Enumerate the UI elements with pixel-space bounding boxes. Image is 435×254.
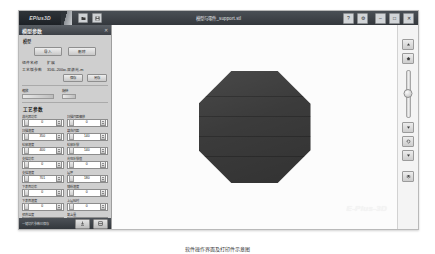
slice-icon[interactable] [93, 219, 108, 229]
octagonal-prism-model[interactable] [199, 71, 311, 183]
parameter-spinner[interactable]: 0 [22, 203, 64, 211]
spinner-stepper[interactable] [56, 161, 62, 168]
window-body: 模型参数 ✕ 模型 导入 删除 组件名称 扩展 工艺版参数 3 [19, 25, 418, 229]
parameter-field: 光斑补偿值0 [67, 156, 109, 169]
parameter-label: 下表面速度 [22, 198, 64, 203]
spinner-stepper[interactable] [56, 119, 62, 126]
delete-model-button[interactable]: 删除 [68, 47, 96, 56]
scale-slider[interactable] [22, 94, 54, 99]
parameter-spinner[interactable]: 140 [67, 147, 109, 155]
panel-title: 模型参数 [22, 27, 42, 34]
rotate-slider[interactable] [62, 94, 76, 99]
spinner-stepper[interactable] [56, 133, 62, 140]
spinner-stepper[interactable] [100, 175, 106, 182]
parameter-panel: 模型参数 ✕ 模型 导入 删除 组件名称 扩展 工艺版参数 3 [19, 25, 112, 229]
view-layer-icon[interactable] [402, 171, 414, 182]
parameter-spinner[interactable]: 0 [67, 161, 109, 169]
parameter-field: 激光器功率0 [22, 114, 64, 127]
parameter-value[interactable]: 140 [74, 149, 101, 152]
parameter-field: 上层延时0 [67, 198, 109, 211]
scale-slider-group: 缩放 [22, 88, 54, 99]
help-icon[interactable]: ? [343, 13, 354, 24]
model-layer-line [199, 116, 311, 117]
parameter-spinner[interactable]: 0 [22, 161, 64, 169]
parameter-spinner[interactable]: 0 [67, 189, 109, 197]
save-button[interactable]: 保存 [63, 74, 83, 82]
save-file-icon[interactable] [92, 13, 102, 23]
view-down-icon[interactable] [402, 150, 414, 161]
model-viewport[interactable]: E-Plus-3D [112, 25, 397, 229]
parameter-value[interactable]: 180 [74, 177, 101, 180]
parameter-field: 扫描间距偏移0 [67, 114, 109, 127]
open-file-icon[interactable] [78, 13, 88, 23]
view-toolbar [397, 25, 418, 229]
parameter-spinner[interactable]: 0 [22, 189, 64, 197]
component-name-label: 组件名称 [22, 60, 44, 65]
model-group-label: 模型 [23, 38, 108, 44]
parameter-label: 氧含量 [67, 212, 109, 217]
parameter-value[interactable]: 0 [29, 121, 56, 124]
parameter-spinner[interactable]: 350 [22, 133, 64, 141]
spinner-stepper[interactable] [100, 189, 106, 196]
parameter-spinner[interactable]: 0 [67, 203, 109, 211]
parameter-label: 光斑补偿值 [67, 156, 109, 161]
parameter-spinner[interactable]: 0 [67, 119, 109, 127]
zoom-slider-thumb[interactable] [404, 89, 413, 98]
panel-close-icon[interactable]: ✕ [104, 27, 108, 33]
parameter-value[interactable]: 0 [29, 205, 56, 208]
parameter-value[interactable]: 701 [29, 177, 56, 180]
parameter-label: 支撑速度 [22, 170, 64, 175]
parameter-spinner[interactable]: 400 [22, 147, 64, 155]
gear-icon[interactable]: ⚙ [357, 13, 368, 24]
parameter-spinner[interactable]: 0 [22, 119, 64, 127]
parameter-value[interactable]: 140 [74, 135, 101, 138]
export-icon[interactable] [75, 219, 90, 229]
parameter-value[interactable]: 350 [29, 135, 56, 138]
view-up-icon[interactable] [402, 39, 414, 50]
footer-note: 一键切片参数已保存 [22, 221, 49, 226]
parameter-value[interactable]: 0 [74, 191, 101, 194]
parameter-spinner[interactable]: 701 [22, 175, 64, 183]
parameter-field: 轮廓补偿140 [67, 142, 109, 155]
parameter-value[interactable]: 0 [29, 163, 56, 166]
footer-buttons [75, 219, 108, 229]
parameter-value[interactable]: 0 [74, 163, 101, 166]
parameter-value[interactable]: 0 [74, 205, 101, 208]
spinner-stepper[interactable] [100, 147, 106, 154]
import-model-button[interactable]: 导入 [34, 47, 62, 56]
spinner-stepper[interactable] [56, 203, 62, 210]
view-rotate-icon[interactable] [402, 136, 414, 147]
view-home-icon[interactable] [402, 53, 414, 64]
process-version-label: 工艺版参数 [22, 67, 44, 72]
parameter-value[interactable]: 0 [74, 121, 101, 124]
spinner-stepper[interactable] [56, 147, 62, 154]
minimize-button[interactable]: – [375, 13, 386, 24]
parameter-label: 层厚 [67, 170, 109, 175]
process-parameter-grid: 激光器功率0扫描间距偏移0扫描速度350填充间距140轮廓速度400轮廓补偿14… [22, 114, 108, 219]
parameter-spinner[interactable]: 140 [67, 133, 109, 141]
parameter-field: 层厚180 [67, 170, 109, 183]
zoom-slider[interactable] [403, 70, 413, 116]
divider-2 [22, 102, 108, 103]
parameter-value[interactable]: 400 [29, 149, 56, 152]
spinner-stepper[interactable] [56, 189, 62, 196]
spinner-stepper[interactable] [56, 175, 62, 182]
view-fit-icon[interactable] [402, 122, 414, 133]
parameter-label: 支撑功率 [22, 156, 64, 161]
spinner-stepper[interactable] [100, 119, 106, 126]
parameter-label: 预热温度 [22, 212, 64, 217]
parameter-value[interactable]: 0 [29, 191, 56, 194]
close-button[interactable]: ✕ [403, 13, 414, 24]
maximize-button[interactable]: □ [389, 13, 400, 24]
transform-slider-row: 缩放 旋转 [22, 88, 108, 99]
save-as-button[interactable]: 另存 [87, 74, 107, 82]
spinner-stepper[interactable] [100, 133, 106, 140]
spinner-stepper[interactable] [100, 161, 106, 168]
spinner-stepper[interactable] [100, 203, 106, 210]
app-root: EPlus3D 模型与零件_support.stl ? ⚙ – □ ✕ [0, 0, 435, 254]
parameter-spinner[interactable]: 180 [67, 175, 109, 183]
parameter-field: 支撑速度701 [22, 170, 64, 183]
panel-header: 模型参数 ✕ [19, 25, 111, 35]
parameter-label: 轮廓补偿 [67, 142, 109, 147]
parameter-label: 铺粉速度 [67, 184, 109, 189]
